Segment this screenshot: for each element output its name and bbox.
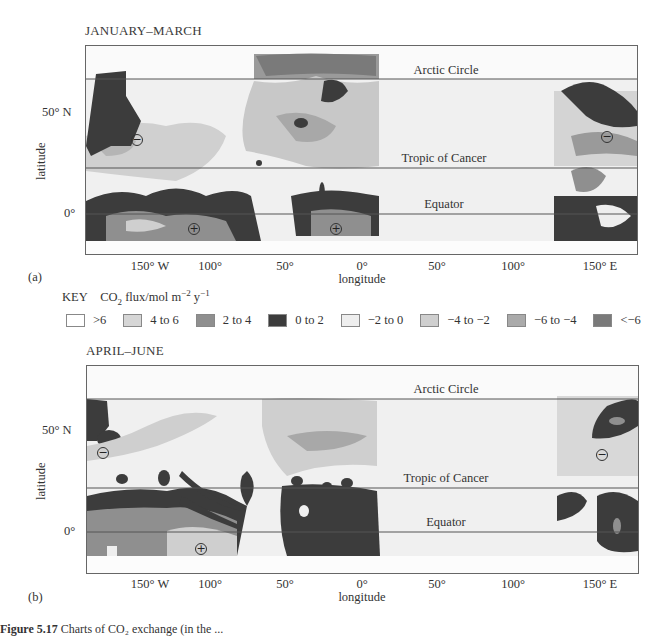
negative-sign-icon: − bbox=[131, 134, 143, 146]
legend-swatch bbox=[341, 314, 360, 327]
arctic-circle-label: Arctic Circle bbox=[414, 382, 479, 397]
y-axis-title: latitude bbox=[34, 143, 49, 181]
legend: >6 4 to 6 2 to 4 0 to 2 −2 to 0 −4 to −2… bbox=[66, 313, 658, 328]
legend-swatch bbox=[420, 314, 439, 327]
x-tick: 150° E bbox=[583, 577, 618, 592]
tropic-of-cancer-label: Tropic of Cancer bbox=[402, 151, 487, 166]
panel-b-letter: (b) bbox=[28, 590, 43, 605]
legend-title: KEY CO2 flux/mol m−2 y−1 bbox=[62, 288, 210, 307]
panel-a-title: JANUARY–MARCH bbox=[85, 23, 202, 39]
negative-sign-icon: − bbox=[601, 131, 613, 143]
equator-label: Equator bbox=[424, 197, 464, 212]
y-axis-title: latitude bbox=[34, 463, 49, 501]
equator-label: Equator bbox=[426, 515, 466, 530]
positive-sign-icon: + bbox=[188, 223, 200, 235]
figure: JANUARY–MARCH bbox=[0, 0, 663, 636]
x-axis-title: longitude bbox=[338, 272, 385, 287]
negative-sign-icon: − bbox=[97, 447, 109, 459]
legend-swatch bbox=[268, 314, 287, 327]
y-tick-0: 0° bbox=[64, 524, 75, 539]
legend-item: −2 to 0 bbox=[341, 313, 404, 328]
x-tick: 50° bbox=[428, 577, 446, 592]
panel-a-flux-map bbox=[86, 46, 637, 254]
x-tick: 100° bbox=[501, 259, 525, 274]
y-tick-50n: 50° N bbox=[42, 423, 72, 438]
legend-swatch bbox=[593, 314, 612, 327]
legend-swatch bbox=[66, 314, 85, 327]
positive-sign-icon: + bbox=[330, 223, 342, 235]
x-tick: 50° bbox=[276, 577, 294, 592]
figure-caption: Figure 5.17 Charts of CO₂ exchange (in t… bbox=[0, 622, 223, 636]
positive-sign-icon: + bbox=[195, 543, 207, 555]
legend-swatch bbox=[507, 314, 526, 327]
panel-b-map: Arctic Circle Tropic of Cancer Equator −… bbox=[86, 365, 639, 574]
x-tick: 100° bbox=[501, 577, 525, 592]
panel-b-title: APRIL–JUNE bbox=[86, 343, 164, 359]
panel-a-letter: (a) bbox=[28, 270, 42, 285]
legend-item: 4 to 6 bbox=[123, 313, 178, 328]
x-tick: 150° E bbox=[583, 259, 618, 274]
panel-a-map: Arctic Circle Tropic of Cancer Equator −… bbox=[85, 45, 638, 255]
legend-swatch bbox=[123, 314, 142, 327]
x-tick: 150° W bbox=[131, 259, 169, 274]
tropic-of-cancer-label: Tropic of Cancer bbox=[404, 471, 489, 486]
x-axis-title: longitude bbox=[338, 590, 385, 605]
x-tick: 100° bbox=[198, 259, 222, 274]
legend-item: 0 to 2 bbox=[268, 313, 323, 328]
y-tick-0: 0° bbox=[64, 206, 75, 221]
x-tick: 150° W bbox=[131, 577, 169, 592]
legend-item: −4 to −2 bbox=[420, 313, 490, 328]
arctic-circle-label: Arctic Circle bbox=[414, 63, 479, 78]
negative-sign-icon: − bbox=[596, 449, 608, 461]
panel-b-flux-map bbox=[87, 366, 638, 573]
y-tick-50n: 50° N bbox=[42, 105, 72, 120]
x-tick: 100° bbox=[198, 577, 222, 592]
legend-item: <−6 bbox=[593, 313, 640, 328]
legend-swatch bbox=[196, 314, 215, 327]
x-tick: 50° bbox=[428, 259, 446, 274]
legend-item: −6 to −4 bbox=[507, 313, 577, 328]
x-tick: 50° bbox=[276, 259, 294, 274]
legend-item: >6 bbox=[66, 313, 106, 328]
legend-item: 2 to 4 bbox=[196, 313, 251, 328]
